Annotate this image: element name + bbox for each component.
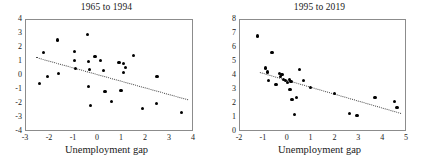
scatter-point	[93, 55, 96, 58]
scatter-point	[274, 83, 277, 86]
x-axis-label-right: Unemployment gap	[213, 144, 426, 155]
y-tick-label: -2	[6, 99, 22, 107]
panel-title-left: 1965 to 1994	[0, 2, 213, 12]
scatter-point	[267, 79, 270, 82]
scatter-point	[288, 88, 291, 91]
y-tick-label: 4	[220, 71, 236, 79]
scatter-point	[290, 98, 293, 101]
x-tick-label: 0	[87, 134, 107, 142]
x-tick-label: -2	[39, 134, 59, 142]
scatter-point	[289, 80, 292, 83]
y-tick-label: 6	[220, 43, 236, 51]
plot-area-right	[239, 19, 406, 131]
x-tick-label: 1	[301, 134, 321, 142]
scatter-point	[373, 96, 376, 99]
y-tick-label: 1	[6, 57, 22, 65]
scatter-point	[256, 34, 259, 37]
x-tick-label: -3	[15, 134, 35, 142]
y-tick-label: 2	[6, 43, 22, 51]
scatter-point	[302, 79, 305, 82]
y-tick-label: 4	[6, 15, 22, 23]
scatter-point	[395, 106, 398, 109]
chart-panel-right: 1995 to 2019 Unemployment gap 012345678-…	[213, 0, 426, 163]
x-tick-label: 1	[111, 134, 131, 142]
y-tick-label: 8	[220, 15, 236, 23]
x-tick-label: 2	[135, 134, 155, 142]
y-tick-label: 3	[220, 85, 236, 93]
x-tick-label: -2	[229, 134, 249, 142]
x-tick-label: -1	[253, 134, 273, 142]
scatter-point	[298, 68, 301, 71]
scatter-point	[38, 82, 41, 85]
x-axis-label-left: Unemployment gap	[0, 144, 213, 155]
x-tick-label: 4	[183, 134, 203, 142]
scatter-point	[141, 107, 144, 110]
scatter-point	[73, 50, 76, 53]
scatter-point	[86, 33, 89, 36]
scatter-point	[333, 92, 336, 95]
y-tick-label: 3	[6, 29, 22, 37]
y-tick-label: 5	[220, 57, 236, 65]
y-tick-label: 2	[220, 99, 236, 107]
plot-area-left	[25, 19, 193, 131]
figure-container: 1965 to 1994 Unemployment gap -4-3-2-101…	[0, 0, 426, 163]
scatter-point	[266, 70, 269, 73]
y-tick-label: 0	[6, 71, 22, 79]
y-tick-label: 7	[220, 29, 236, 37]
scatter-point	[355, 114, 358, 117]
scatter-point	[155, 75, 158, 78]
x-tick-label: 2	[324, 134, 344, 142]
scatter-point	[117, 61, 120, 64]
scatter-point	[103, 90, 106, 93]
scatter-point	[89, 104, 92, 107]
x-tick-label: -1	[63, 134, 83, 142]
y-tick-label: -1	[6, 85, 22, 93]
x-tick-label: 3	[348, 134, 368, 142]
x-tick-label: 4	[372, 134, 392, 142]
scatter-point	[87, 60, 90, 63]
scatter-point	[119, 89, 122, 92]
x-tick-label: 5	[396, 134, 416, 142]
x-tick-label: 3	[159, 134, 179, 142]
panel-title-right: 1995 to 2019	[213, 2, 426, 12]
chart-panel-left: 1965 to 1994 Unemployment gap -4-3-2-101…	[0, 0, 213, 163]
scatter-point	[280, 73, 283, 76]
x-tick-label: 0	[277, 134, 297, 142]
scatter-point	[348, 112, 351, 115]
y-tick-label: 1	[220, 113, 236, 121]
scatter-point	[264, 66, 267, 69]
y-tick-label: -3	[6, 113, 22, 121]
